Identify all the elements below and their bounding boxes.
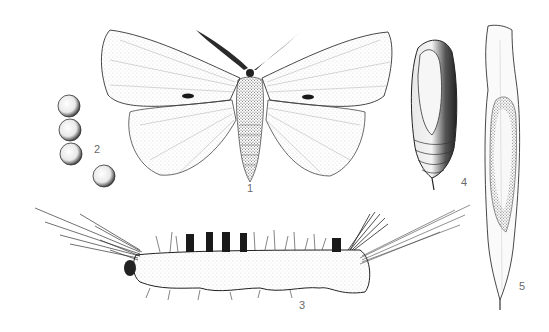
- plate-drawing: [0, 0, 549, 332]
- figure-5-cocoon-leaf: [485, 25, 520, 310]
- discal-spot-right: [302, 95, 314, 100]
- moth-body: [237, 77, 264, 182]
- figure-4-pupa: [411, 40, 456, 190]
- right-forewing: [262, 32, 392, 106]
- egg: [58, 95, 80, 117]
- figure-1-adult-moth: [101, 30, 391, 182]
- figure-label-2: 2: [94, 144, 100, 155]
- egg: [93, 165, 115, 187]
- figure-3-caterpillar: [35, 205, 470, 300]
- figure-label-5: 5: [519, 281, 525, 292]
- left-forewing: [101, 30, 240, 106]
- discal-spot-left: [182, 94, 194, 99]
- left-hindwing: [129, 100, 236, 175]
- figure-label-1: 1: [247, 183, 253, 194]
- caterpillar-body: [133, 250, 369, 293]
- figure-label-3: 3: [299, 300, 305, 311]
- illustration-plate: 1 2 3 4 5: [0, 0, 549, 332]
- figure-label-4: 4: [461, 177, 467, 188]
- figure-2-eggs: [58, 95, 115, 187]
- right-hindwing: [266, 100, 365, 176]
- egg: [60, 143, 82, 165]
- egg: [59, 119, 81, 141]
